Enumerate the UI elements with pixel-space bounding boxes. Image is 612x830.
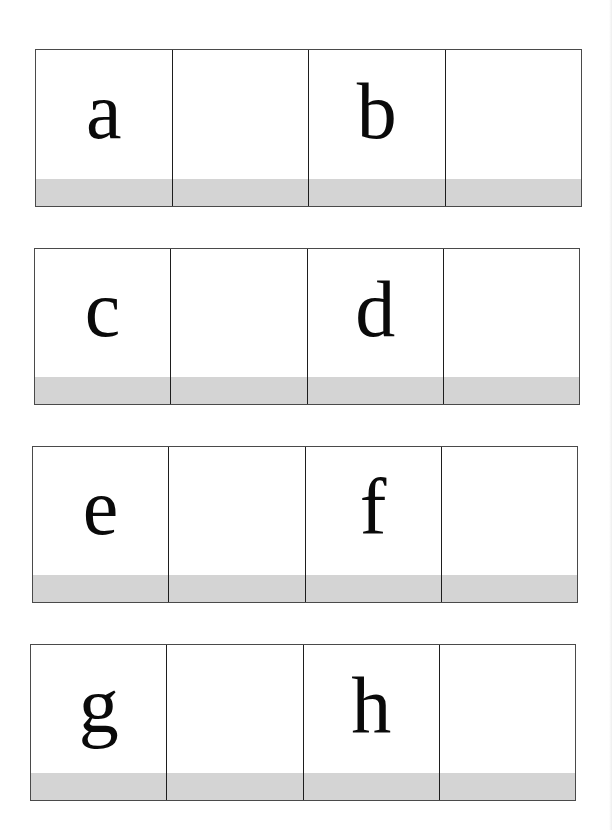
letter-strip-4: g h [30, 644, 576, 801]
cell-writing-area [167, 645, 302, 773]
cell-writing-area: e [33, 447, 168, 575]
letter-cell: a [36, 50, 172, 206]
letter-cell: f [305, 447, 441, 602]
letter-cell: c [35, 249, 170, 404]
cell-writing-area: f [306, 447, 441, 575]
cell-gray-band [173, 179, 309, 206]
cell-writing-area [173, 50, 309, 179]
letter-strip-2: c d [34, 248, 580, 405]
letter-strip-3: e f [32, 446, 578, 603]
cell-gray-band [444, 377, 579, 404]
cell-gray-band [306, 575, 441, 602]
cell-writing-area [446, 50, 582, 179]
blank-cell [445, 50, 582, 206]
blank-cell [166, 645, 302, 800]
letter-cell: e [33, 447, 168, 602]
cell-gray-band [442, 575, 577, 602]
cell-gray-band [446, 179, 582, 206]
letter-glyph: e [83, 467, 119, 547]
letter-cell: b [308, 50, 445, 206]
cell-writing-area: c [35, 249, 170, 377]
cell-gray-band [167, 773, 302, 800]
blank-cell [441, 447, 577, 602]
letter-glyph: f [360, 467, 387, 547]
letter-glyph: c [85, 269, 121, 349]
cell-writing-area: b [309, 50, 445, 179]
letter-cell: h [303, 645, 439, 800]
cell-gray-band [440, 773, 575, 800]
cell-gray-band [36, 179, 172, 206]
cell-writing-area [444, 249, 579, 377]
blank-cell [170, 249, 306, 404]
cell-gray-band [169, 575, 304, 602]
cell-writing-area [171, 249, 306, 377]
letter-cell: d [307, 249, 443, 404]
cell-gray-band [308, 377, 443, 404]
worksheet-page: a b c [0, 0, 612, 830]
cell-writing-area: g [31, 645, 166, 773]
letter-strip-1: a b [35, 49, 582, 207]
cell-gray-band [31, 773, 166, 800]
cell-writing-area [169, 447, 304, 575]
cell-writing-area: d [308, 249, 443, 377]
letter-glyph: a [86, 71, 122, 151]
blank-cell [168, 447, 304, 602]
cell-writing-area: a [36, 50, 172, 179]
letter-glyph: g [79, 665, 119, 745]
cell-gray-band [304, 773, 439, 800]
cell-gray-band [35, 377, 170, 404]
cell-writing-area: h [304, 645, 439, 773]
letter-glyph: d [355, 269, 395, 349]
cell-gray-band [171, 377, 306, 404]
blank-cell [172, 50, 309, 206]
letter-glyph: b [357, 71, 397, 151]
cell-gray-band [33, 575, 168, 602]
letter-cell: g [31, 645, 166, 800]
cell-writing-area [440, 645, 575, 773]
letter-glyph: h [351, 665, 391, 745]
cell-gray-band [309, 179, 445, 206]
blank-cell [439, 645, 575, 800]
cell-writing-area [442, 447, 577, 575]
blank-cell [443, 249, 579, 404]
